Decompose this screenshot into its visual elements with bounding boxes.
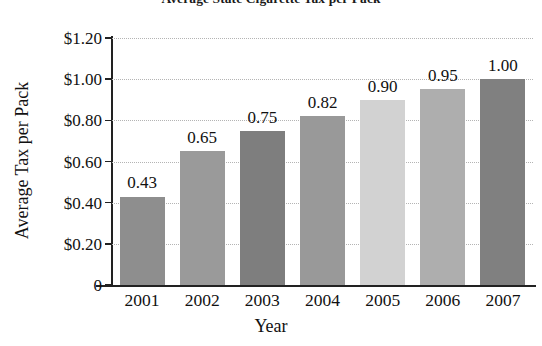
x-tick-label: 2003 (228, 292, 296, 310)
y-tick-label: $0.40 (16, 195, 102, 212)
bar (120, 197, 165, 286)
y-tick-mark (105, 37, 112, 39)
x-tick-label: 2001 (108, 292, 176, 310)
x-tick-label: 2005 (349, 292, 417, 310)
y-tick-label: $0.20 (16, 236, 102, 253)
x-tick-label: 2007 (469, 292, 537, 310)
bar-chart-figure: Average State Cigarette Tax per Pack Ave… (0, 0, 542, 346)
y-tick-mark (105, 78, 112, 80)
y-tick-mark (105, 284, 112, 286)
y-tick-label: $0.60 (16, 154, 102, 171)
y-tick-mark (105, 243, 112, 245)
bar (480, 79, 525, 285)
y-tick-mark (105, 120, 112, 122)
bar-value-label: 0.95 (413, 67, 473, 84)
y-tick-mark (105, 161, 112, 163)
bar (360, 100, 405, 285)
y-tick-label: 0 (16, 277, 102, 294)
bar-value-label: 0.82 (293, 94, 353, 111)
bar (300, 116, 345, 285)
bar (240, 131, 285, 285)
bar-value-label: 0.43 (112, 174, 172, 191)
y-tick-label: $0.80 (16, 112, 102, 129)
y-tick-mark (105, 202, 112, 204)
y-tick-label: $1.20 (16, 30, 102, 47)
bar-value-label: 0.90 (353, 78, 413, 95)
x-tick-label: 2004 (289, 292, 357, 310)
bar-value-label: 1.00 (473, 57, 533, 74)
bar (420, 89, 465, 285)
chart-title: Average State Cigarette Tax per Pack (0, 0, 542, 7)
x-tick-label: 2006 (409, 292, 477, 310)
bar-value-label: 0.75 (232, 109, 292, 126)
plot-area: $1.20$1.00$0.80$0.60$0.40$0.200 0.430.65… (112, 38, 533, 285)
x-axis-line (96, 285, 536, 287)
bar (180, 151, 225, 285)
gridline (112, 38, 533, 39)
x-tick-label: 2002 (168, 292, 236, 310)
bar-value-label: 0.65 (172, 129, 232, 146)
x-axis-title: Year (0, 316, 542, 337)
y-tick-label: $1.00 (16, 71, 102, 88)
